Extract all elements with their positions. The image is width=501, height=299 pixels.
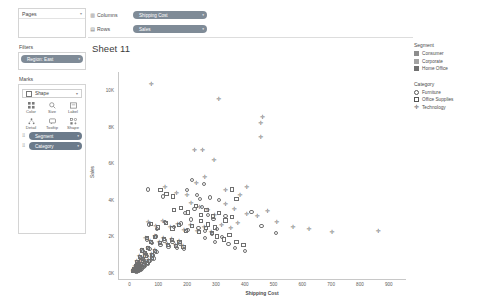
data-point-plus[interactable]: ✛: [306, 226, 312, 232]
plot-area[interactable]: ✛✛✛✛✛✛✛✛✛✛✛✛✛✛✛✛✛✛✛✛✛✛✛✛✛✛✛✛✛✛✛✛✛✛✛✛✛✛✛✛…: [118, 72, 406, 280]
data-point-plus[interactable]: ✛: [187, 222, 193, 228]
data-point-plus[interactable]: ✛: [244, 211, 250, 217]
data-point-square[interactable]: [172, 208, 176, 212]
data-point-square[interactable]: [199, 213, 203, 217]
data-point-square[interactable]: [241, 243, 245, 247]
data-point-plus[interactable]: ✛: [208, 229, 214, 235]
marks-encoding-category[interactable]: ⠿ Category ▾: [22, 142, 82, 150]
data-point-square[interactable]: [234, 240, 238, 244]
columns-shelf[interactable]: ▥ Columns Shipping Cost ▾: [88, 8, 413, 22]
data-point-square[interactable]: [230, 215, 234, 219]
data-point-plus[interactable]: ✛: [201, 224, 207, 230]
pages-drop-area[interactable]: [19, 18, 85, 39]
data-point-circle[interactable]: [217, 198, 221, 202]
data-point-square[interactable]: [179, 206, 183, 210]
data-point-plus[interactable]: ✛: [133, 268, 139, 274]
data-point-plus[interactable]: ✛: [181, 227, 187, 233]
data-point-circle[interactable]: [213, 240, 217, 244]
data-point-plus[interactable]: ✛: [219, 222, 225, 228]
data-point-plus[interactable]: ✛: [265, 208, 271, 214]
data-point-plus[interactable]: ✛: [149, 254, 155, 260]
data-point-plus[interactable]: ✛: [193, 180, 199, 186]
scatter-plot[interactable]: Sales 0K2K4K6K8K10K ✛✛✛✛✛✛✛✛✛✛✛✛✛✛✛✛✛✛✛✛…: [88, 60, 413, 285]
data-point-plus[interactable]: ✛: [216, 96, 222, 102]
data-point-square[interactable]: [164, 192, 168, 196]
marks-encoding-segment[interactable]: ⠿ Segment ▾: [22, 132, 82, 140]
data-point-square[interactable]: [186, 210, 190, 214]
chevron-down-icon[interactable]: ▾: [202, 27, 204, 31]
marks-button-color[interactable]: Color: [22, 101, 40, 114]
data-point-plus[interactable]: ✛: [244, 184, 250, 190]
data-point-plus[interactable]: ✛: [153, 223, 159, 229]
data-point-plus[interactable]: ✛: [184, 192, 190, 198]
chevron-down-icon[interactable]: ▾: [202, 13, 204, 17]
data-point-plus[interactable]: ✛: [200, 147, 206, 153]
data-point-plus[interactable]: ✛: [188, 200, 194, 206]
legend-item[interactable]: Corporate: [414, 59, 486, 64]
data-point-circle[interactable]: [274, 231, 278, 235]
marks-button-shape[interactable]: Shape: [64, 117, 82, 130]
data-point-plus[interactable]: ✛: [175, 221, 181, 227]
data-point-plus[interactable]: ✛: [197, 204, 203, 210]
data-point-plus[interactable]: ✛: [274, 219, 280, 225]
legend-item[interactable]: Home Office: [414, 66, 486, 71]
legend-item[interactable]: ✛Technology: [414, 105, 486, 110]
data-point-plus[interactable]: ✛: [160, 218, 166, 224]
data-point-circle[interactable]: [249, 210, 253, 214]
data-point-plus[interactable]: ✛: [145, 219, 151, 225]
data-point-plus[interactable]: ✛: [148, 81, 154, 87]
data-point-circle[interactable]: [203, 236, 207, 240]
data-point-plus[interactable]: ✛: [375, 228, 381, 234]
data-point-circle[interactable]: [243, 249, 247, 253]
data-point-plus[interactable]: ✛: [329, 229, 335, 235]
data-point-plus[interactable]: ✛: [228, 225, 234, 231]
data-point-circle[interactable]: [202, 182, 206, 186]
data-point-plus[interactable]: ✛: [237, 192, 243, 198]
data-point-square[interactable]: [227, 233, 231, 237]
data-point-plus[interactable]: ✛: [202, 174, 208, 180]
data-point-plus[interactable]: ✛: [191, 147, 197, 153]
data-point-circle[interactable]: [146, 187, 150, 191]
legend-item[interactable]: Office Supplies: [414, 97, 486, 102]
chevron-down-icon[interactable]: ▾: [77, 134, 79, 138]
data-point-plus[interactable]: ✛: [162, 184, 168, 190]
data-point-plus[interactable]: ✛: [235, 220, 241, 226]
data-point-plus[interactable]: ✛: [205, 207, 211, 213]
data-point-plus[interactable]: ✛: [223, 187, 229, 193]
filters-card[interactable]: Region: East ▾: [18, 52, 86, 70]
data-point-plus[interactable]: ✛: [174, 190, 180, 196]
rows-shelf[interactable]: ▤ Rows Sales ▾: [88, 22, 413, 36]
legend-item[interactable]: Consumer: [414, 51, 486, 56]
data-point-square[interactable]: [215, 234, 219, 238]
marks-button-size[interactable]: Size: [43, 101, 61, 114]
data-point-circle[interactable]: [198, 197, 202, 201]
legend-item[interactable]: Furniture: [414, 90, 486, 95]
data-point-plus[interactable]: ✛: [194, 228, 200, 234]
data-point-circle[interactable]: [208, 195, 212, 199]
data-point-square[interactable]: [222, 237, 226, 241]
data-point-plus[interactable]: ✛: [231, 206, 237, 212]
encoding-pill-segment[interactable]: Segment ▾: [29, 132, 82, 140]
data-point-circle[interactable]: [223, 214, 227, 218]
data-point-square[interactable]: [230, 187, 234, 191]
data-point-plus[interactable]: ✛: [167, 224, 173, 230]
shelf-pill-shipping-cost[interactable]: Shipping Cost ▾: [133, 11, 207, 19]
data-point-plus[interactable]: ✛: [258, 120, 264, 126]
data-point-plus[interactable]: ✛: [258, 134, 264, 140]
marks-button-tooltip[interactable]: Tooltip: [43, 117, 61, 130]
shelf-pill-sales[interactable]: Sales ▾: [133, 25, 207, 33]
chevron-down-icon[interactable]: ▾: [76, 91, 78, 96]
data-point-circle[interactable]: [233, 246, 237, 250]
mark-type-select[interactable]: Shape ▾: [22, 89, 82, 98]
chevron-down-icon[interactable]: ▾: [80, 12, 82, 16]
data-point-circle[interactable]: [259, 224, 263, 228]
encoding-pill-category[interactable]: Category ▾: [29, 142, 82, 150]
data-point-plus[interactable]: ✛: [211, 157, 217, 163]
data-point-circle[interactable]: [226, 242, 230, 246]
marks-button-label[interactable]: Label: [64, 101, 82, 114]
filter-pill-region[interactable]: Region: East ▾: [21, 55, 83, 63]
data-point-plus[interactable]: ✛: [290, 224, 296, 230]
chevron-down-icon[interactable]: ▾: [77, 144, 79, 148]
data-point-plus[interactable]: ✛: [212, 212, 218, 218]
marks-button-detail[interactable]: Detail: [22, 117, 40, 130]
